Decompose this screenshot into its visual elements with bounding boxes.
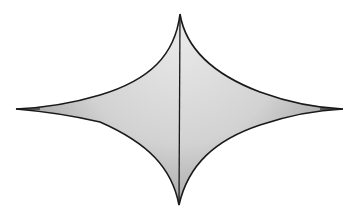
diagram-canvas bbox=[0, 0, 354, 216]
astroid-figure bbox=[0, 0, 354, 216]
